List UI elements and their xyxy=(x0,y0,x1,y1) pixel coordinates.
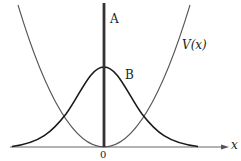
label-b: B xyxy=(125,69,134,81)
diagram-canvas xyxy=(0,0,241,161)
label-x-axis: x xyxy=(231,139,238,151)
label-potential: V(x) xyxy=(182,39,207,51)
label-origin: 0 xyxy=(100,150,106,160)
spike-curve-a xyxy=(103,3,106,147)
label-a: A xyxy=(110,13,119,25)
x-axis-arrow-icon xyxy=(221,145,229,150)
